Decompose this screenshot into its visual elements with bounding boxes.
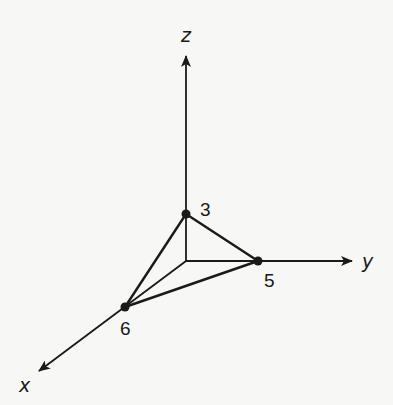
- point-x-intercept: [121, 303, 130, 312]
- edge-z-y: [186, 214, 258, 261]
- point-z-intercept: [182, 210, 191, 219]
- edge-z-x: [125, 214, 186, 307]
- point-y-intercept: [254, 257, 263, 266]
- x-intercept-label: 6: [120, 318, 131, 339]
- z-intercept-label: 3: [200, 199, 211, 220]
- y-intercept-label: 5: [264, 270, 275, 291]
- y-axis-label: y: [361, 250, 374, 272]
- edge-x-y: [125, 261, 258, 307]
- z-axis-label: z: [180, 24, 192, 46]
- coordinate-diagram: z y x 3 5 6: [0, 0, 393, 405]
- x-axis-label: x: [18, 374, 31, 396]
- x-axis: [39, 261, 186, 371]
